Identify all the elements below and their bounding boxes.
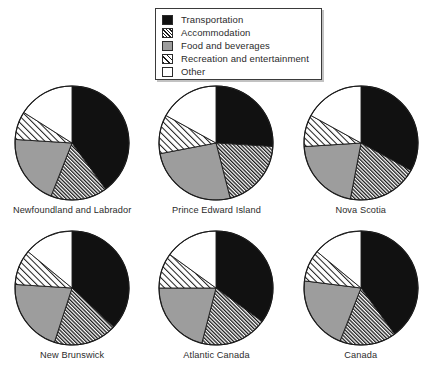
pie-chart-new-brunswick: New Brunswick (0, 229, 144, 374)
legend-item-recreation-and-entertainment: Recreation and entertainment (162, 52, 321, 65)
legend-item-food-and-beverages: Food and beverages (162, 39, 321, 52)
pie-figure (157, 229, 275, 347)
pie-figure (157, 84, 275, 202)
pie-svg (13, 84, 131, 202)
legend-label-food-and-beverages: Food and beverages (181, 41, 270, 51)
pie-chart-atlantic-canada: Atlantic Canada (144, 229, 288, 374)
legend-swatch-recreation-and-entertainment-icon (162, 54, 173, 64)
pie-svg (302, 229, 420, 347)
pie-caption: Atlantic Canada (183, 350, 249, 360)
pie-chart-grid: Newfoundland and Labrador Prince Edward … (0, 84, 433, 374)
pie-caption: Prince Edward Island (172, 205, 261, 215)
pie-caption: New Brunswick (40, 350, 104, 360)
pie-figure (13, 229, 131, 347)
legend-label-accommodation: Accommodation (181, 28, 250, 38)
pie-figure (302, 84, 420, 202)
legend-item-other: Other (162, 65, 321, 78)
legend-swatch-food-and-beverages-icon (162, 41, 173, 51)
legend-item-accommodation: Accommodation (162, 26, 321, 39)
pie-chart-newfoundland-and-labrador: Newfoundland and Labrador (0, 84, 144, 229)
legend-label-transportation: Transportation (181, 15, 243, 25)
pie-svg (157, 229, 275, 347)
pie-slice (216, 86, 273, 147)
pie-chart-row-2: New Brunswick Atlantic Canada Canada (0, 229, 433, 374)
pie-chart-row-1: Newfoundland and Labrador Prince Edward … (0, 84, 433, 229)
legend-swatch-other-icon (162, 67, 173, 77)
pie-svg (157, 84, 275, 202)
pie-figure (302, 229, 420, 347)
legend-swatch-accommodation-icon (162, 28, 173, 38)
pie-chart-prince-edward-island: Prince Edward Island (144, 84, 288, 229)
pie-caption: Canada (344, 350, 377, 360)
pie-chart-canada: Canada (289, 229, 433, 374)
pie-svg (13, 229, 131, 347)
pie-caption: Nova Scotia (335, 205, 386, 215)
legend-item-transportation: Transportation (162, 13, 321, 26)
pie-figure (13, 84, 131, 202)
legend-swatch-transportation-icon (162, 15, 173, 25)
pie-caption: Newfoundland and Labrador (13, 205, 131, 215)
pie-svg (302, 84, 420, 202)
legend-label-recreation-and-entertainment: Recreation and entertainment (181, 54, 309, 64)
legend-label-other: Other (181, 67, 205, 77)
legend: Transportation Accommodation Food and be… (155, 8, 322, 80)
pie-chart-nova-scotia: Nova Scotia (289, 84, 433, 229)
